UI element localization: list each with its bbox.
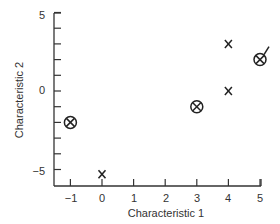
x-marker-icon [99,170,106,178]
x-tick-label: 4 [225,192,231,204]
circled-x-marker-icon [254,47,269,66]
x-tick-label: 5 [257,192,263,204]
circled-x-marker-icon [191,101,203,113]
x-tick-label: 0 [99,192,105,204]
axes [54,13,261,186]
annotation-line [264,47,269,55]
scatter-chart: 5 0 −5 −1 0 1 2 3 4 5 Characteristic 1 C… [0,0,280,224]
x-marker-icon [225,40,232,48]
x-tick-label: 2 [163,192,169,204]
x-marker-icon [225,87,232,95]
x-tick-label: −1 [65,192,78,204]
circled-x-marker-icon [64,116,76,128]
data-points [64,40,269,178]
x-ticks [70,179,260,186]
y-tick-label: −5 [32,165,45,177]
x-axis-label: Characteristic 1 [128,207,204,219]
y-tick-label: 0 [39,84,45,96]
y-ticks [54,13,61,170]
y-axis-label: Characteristic 2 [13,62,25,138]
y-tick-label: 5 [39,9,45,21]
x-tick-label: 3 [194,192,200,204]
x-tick-label: 1 [131,192,137,204]
